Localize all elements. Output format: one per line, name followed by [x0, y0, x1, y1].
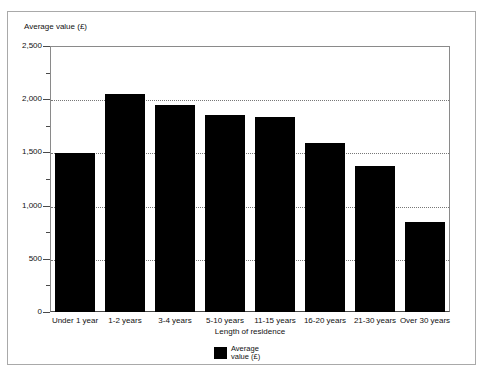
y-axis-tick — [43, 312, 50, 313]
y-axis-tick-label: 1,500 — [22, 148, 42, 156]
y-axis-tick-label: 500 — [29, 255, 42, 263]
y-axis-tick — [43, 259, 50, 260]
x-axis-title: Length of residence — [50, 327, 450, 337]
y-axis-tick-label: 2,000 — [22, 95, 42, 103]
bar — [305, 143, 345, 312]
y-axis-tick — [43, 46, 50, 47]
x-axis-tick-label: Over 30 years — [390, 316, 460, 325]
bar — [105, 94, 145, 312]
chart-legend: Average value (£) — [214, 345, 260, 361]
bar — [355, 166, 395, 312]
bar — [205, 115, 245, 312]
bar — [255, 117, 295, 312]
y-axis-tick-label: 1,000 — [22, 202, 42, 210]
y-axis-tick — [43, 152, 50, 153]
y-axis-tick-label: 0 — [38, 308, 42, 316]
bar-series-average-value — [50, 46, 450, 312]
y-axis-tick — [43, 206, 50, 207]
bar — [55, 153, 95, 312]
chart-figure: Average value (£) 05001,0001,5002,0002,5… — [0, 0, 484, 374]
bar — [405, 222, 445, 312]
y-axis-tick-label: 2,500 — [22, 42, 42, 50]
legend-label-average-value: Average value (£) — [231, 345, 260, 361]
bar — [155, 105, 195, 312]
y-axis-tick — [43, 99, 50, 100]
legend-swatch-average-value — [214, 347, 227, 359]
y-axis-title: Average value (£) — [24, 22, 87, 32]
